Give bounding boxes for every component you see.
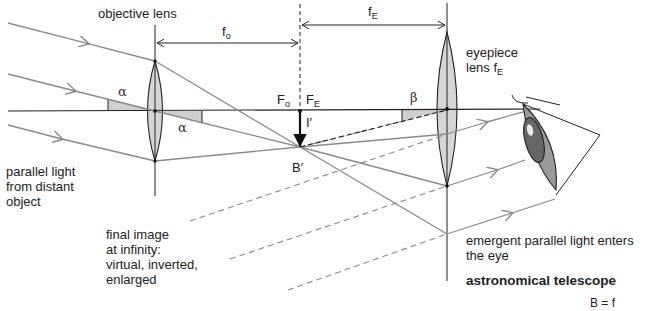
image-point-label: B′: [292, 160, 303, 175]
objective-top-dot: [153, 59, 156, 62]
alpha-label-right: α: [178, 120, 187, 135]
optical-axis: [8, 109, 540, 111]
eyepiece-center-dot: [445, 107, 449, 111]
focal-point-dot: [298, 109, 302, 113]
f-e-label: fE: [368, 4, 378, 21]
refracted-rays: [155, 61, 447, 234]
formula-partial: B = f: [590, 296, 615, 311]
beta-label: β: [410, 90, 418, 105]
F-e-label: FE: [306, 92, 320, 109]
eyepiece-label: eyepiece lens fE: [466, 45, 518, 77]
final-image-label: final image at infinity: virtual, invert…: [106, 227, 198, 287]
image-height-label: I′: [306, 115, 312, 130]
f-o-label: fo: [222, 24, 231, 41]
eyepiece-bottom-dot: [445, 184, 449, 188]
emergent-light-label: emergent parallel light enters the eye: [466, 233, 634, 263]
incoming-rays: [8, 23, 155, 161]
objective-center-dot: [153, 109, 157, 113]
parallel-light-label: parallel light from distant object: [6, 164, 75, 209]
objective-bottom-dot: [153, 159, 156, 162]
diagram-caption: astronomical telescope: [466, 273, 616, 288]
eye-icon: [512, 95, 600, 195]
alpha-label-left: α: [118, 84, 127, 99]
F-o-label: Fo: [277, 92, 290, 109]
objective-lens-label: objective lens: [98, 6, 177, 21]
